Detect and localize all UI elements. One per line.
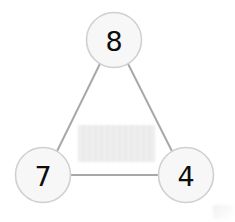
redacted-center-label xyxy=(78,125,155,162)
corner-artifact xyxy=(213,205,233,219)
node-bottom-right-label: 4 xyxy=(177,161,194,192)
graph-figure: 8 7 4 xyxy=(0,0,235,222)
node-top-label: 8 xyxy=(105,26,122,57)
node-bottom-left-label: 7 xyxy=(34,161,51,192)
node-bottom-left[interactable]: 7 xyxy=(16,148,71,203)
graph-canvas: 8 7 4 xyxy=(0,0,235,222)
node-top[interactable]: 8 xyxy=(87,13,142,68)
node-bottom-right[interactable]: 4 xyxy=(159,148,214,203)
